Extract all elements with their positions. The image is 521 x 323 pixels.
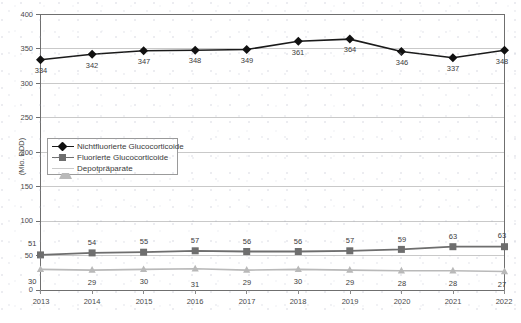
data-label-fluorierte-2013: 51 bbox=[28, 239, 58, 248]
data-label-depotpraeparate-2022: 27 bbox=[487, 280, 517, 289]
data-label-depotpraeparate-2014: 29 bbox=[77, 278, 107, 287]
x-tick-label-2019: 2019 bbox=[335, 297, 365, 306]
series-line-nichtfluorierte bbox=[41, 39, 505, 60]
data-label-nichtfluorierte-2013: 334 bbox=[26, 66, 56, 75]
data-label-nichtfluorierte-2017: 349 bbox=[232, 56, 262, 65]
y-tick-label-350: 350 bbox=[8, 44, 33, 53]
x-tick-label-2013: 2013 bbox=[26, 297, 56, 306]
legend-item-depotpraeparate[interactable]: Depotpräparate bbox=[52, 163, 133, 174]
series-markers-nichtfluorierte bbox=[36, 35, 509, 65]
data-label-fluorierte-2014: 54 bbox=[77, 238, 107, 247]
square-marker-icon bbox=[52, 152, 74, 163]
y-axis-ticks bbox=[36, 15, 40, 291]
data-label-nichtfluorierte-2016: 348 bbox=[180, 56, 210, 65]
data-label-fluorierte-2021: 63 bbox=[438, 232, 468, 241]
x-tick-label-2021: 2021 bbox=[438, 297, 468, 306]
y-tick-label-0: 0 bbox=[8, 285, 33, 294]
chart-figure: (Mio. DDD) 400 350 300 250 200 150 100 5… bbox=[0, 0, 521, 323]
data-label-depotpraeparate-2019: 29 bbox=[335, 278, 365, 287]
legend-label-nichtfluorierte: Nichtfluorierte Glucocorticoide bbox=[74, 142, 184, 151]
data-label-nichtfluorierte-2020: 346 bbox=[387, 58, 417, 67]
data-label-nichtfluorierte-2018: 361 bbox=[283, 48, 313, 57]
data-label-depotpraeparate-2015: 30 bbox=[129, 277, 159, 286]
data-label-nichtfluorierte-2015: 347 bbox=[129, 57, 159, 66]
gridlines bbox=[40, 15, 505, 256]
data-label-depotpraeparate-2017: 29 bbox=[232, 278, 262, 287]
y-tick-label-50: 50 bbox=[8, 251, 33, 260]
data-label-depotpraeparate-2020: 28 bbox=[387, 279, 417, 288]
triangle-marker-icon bbox=[52, 163, 74, 174]
x-tick-label-2016: 2016 bbox=[180, 297, 210, 306]
y-tick-label-200: 200 bbox=[8, 148, 33, 157]
x-tick-label-2015: 2015 bbox=[129, 297, 159, 306]
diamond-marker-icon bbox=[52, 141, 74, 152]
legend-label-depotpraeparate: Depotpräparate bbox=[74, 164, 133, 173]
x-tick-label-2018: 2018 bbox=[283, 297, 313, 306]
data-label-nichtfluorierte-2014: 342 bbox=[77, 61, 107, 70]
y-tick-label-300: 300 bbox=[8, 79, 33, 88]
y-tick-label-150: 150 bbox=[8, 182, 33, 191]
data-label-depotpraeparate-2013: 30 bbox=[28, 277, 58, 286]
y-tick-label-100: 100 bbox=[8, 216, 33, 225]
legend-label-fluorierte: Fluorierte Glucocorticoide bbox=[74, 153, 168, 162]
x-tick-label-2022: 2022 bbox=[489, 297, 519, 306]
data-label-depotpraeparate-2016: 31 bbox=[180, 280, 210, 289]
x-tick-label-2020: 2020 bbox=[387, 297, 417, 306]
x-tick-label-2017: 2017 bbox=[232, 297, 262, 306]
data-label-nichtfluorierte-2022: 348 bbox=[487, 57, 517, 66]
data-label-depotpraeparate-2018: 30 bbox=[283, 277, 313, 286]
data-label-fluorierte-2017: 56 bbox=[232, 237, 262, 246]
y-tick-label-250: 250 bbox=[8, 113, 33, 122]
data-label-fluorierte-2020: 59 bbox=[387, 235, 417, 244]
data-label-depotpraeparate-2021: 28 bbox=[438, 279, 468, 288]
data-label-fluorierte-2019: 57 bbox=[335, 236, 365, 245]
x-tick-label-2014: 2014 bbox=[77, 297, 107, 306]
series-line-depotpraeparate bbox=[41, 269, 505, 272]
data-label-fluorierte-2016: 57 bbox=[180, 236, 210, 245]
legend-item-fluorierte[interactable]: Fluorierte Glucocorticoide bbox=[52, 152, 168, 163]
data-label-nichtfluorierte-2021: 337 bbox=[438, 64, 468, 73]
legend-item-nichtfluorierte[interactable]: Nichtfluorierte Glucocorticoide bbox=[52, 141, 184, 152]
series-line-fluorierte bbox=[41, 247, 505, 255]
y-tick-label-400: 400 bbox=[8, 10, 33, 19]
data-label-fluorierte-2015: 55 bbox=[129, 237, 159, 246]
chart-legend: Nichtfluorierte Glucocorticoide Fluorier… bbox=[47, 138, 178, 175]
data-label-fluorierte-2018: 56 bbox=[283, 237, 313, 246]
data-label-fluorierte-2022: 63 bbox=[487, 231, 517, 240]
data-label-nichtfluorierte-2019: 364 bbox=[335, 45, 365, 54]
